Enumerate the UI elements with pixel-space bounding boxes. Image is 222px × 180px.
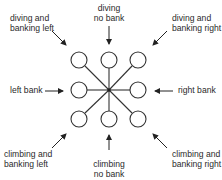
arrow-climbing-banking-left bbox=[52, 134, 66, 148]
center-dot bbox=[107, 88, 111, 92]
label-line: banking right bbox=[172, 24, 221, 34]
label-diving-banking-right: diving and banking right bbox=[172, 14, 221, 33]
label-climbing-banking-left: climbing and banking left bbox=[4, 150, 52, 169]
circle-left-bank bbox=[71, 82, 87, 98]
arrow-diving-banking-right bbox=[153, 31, 167, 45]
label-line: banking left bbox=[10, 24, 54, 34]
label-right-bank: right bank bbox=[178, 86, 216, 96]
label-climbing-banking-right: climbing and banking right bbox=[172, 150, 221, 169]
circle-climbing-banking-right bbox=[130, 111, 146, 127]
circle-climbing-no-bank bbox=[101, 111, 117, 127]
label-diving-banking-left: diving and banking left bbox=[10, 14, 54, 33]
circle-diving-banking-right bbox=[130, 52, 146, 68]
label-diving-no-bank: diving no bank bbox=[88, 4, 130, 23]
label-line: banking left bbox=[4, 160, 52, 170]
label-line: no bank bbox=[86, 170, 132, 180]
circle-right-bank bbox=[130, 82, 146, 98]
label-climbing-no-bank: climbing no bank bbox=[86, 160, 132, 179]
circle-climbing-banking-left bbox=[71, 111, 87, 127]
circle-diving-no-bank bbox=[101, 52, 117, 68]
label-line: no bank bbox=[88, 14, 130, 24]
arrow-climbing-banking-right bbox=[153, 134, 167, 148]
label-left-bank: left bank bbox=[10, 86, 43, 96]
label-line: banking right bbox=[172, 160, 221, 170]
circle-diving-banking-left bbox=[71, 52, 87, 68]
arrow-diving-banking-left bbox=[52, 31, 66, 45]
